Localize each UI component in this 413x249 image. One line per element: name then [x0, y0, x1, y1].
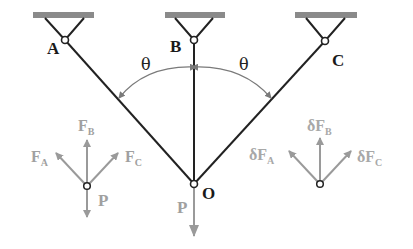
fbd-left-node — [84, 183, 91, 190]
label-a: A — [47, 39, 60, 58]
label-o: O — [202, 184, 215, 203]
force-arrow-fc — [89, 153, 118, 184]
angle-arc-right — [196, 67, 271, 98]
ceiling-a — [33, 12, 94, 18]
label-b: B — [170, 37, 181, 56]
joint-o — [191, 181, 198, 188]
label-fa: FA — [31, 148, 49, 168]
fbd-right-node — [317, 181, 324, 188]
label-dfb: δFB — [307, 117, 332, 137]
fbd-right: δFB δFA δFC — [249, 117, 382, 187]
label-p-fbd: P — [98, 191, 108, 210]
fbd-left: FB FA FC P — [31, 117, 142, 217]
support-c — [295, 12, 357, 41]
force-arrow-fa — [56, 153, 85, 184]
pin-c — [322, 38, 329, 45]
support-a — [33, 12, 94, 40]
label-dfc: δFC — [357, 148, 382, 168]
label-c: C — [332, 51, 344, 70]
label-dfa: δFA — [249, 146, 275, 166]
pin-b — [191, 37, 198, 44]
label-p-main: P — [177, 198, 187, 217]
label-fb: FB — [78, 117, 95, 137]
angle-arc-left — [119, 67, 192, 98]
support-b — [165, 12, 225, 40]
ceiling-c — [295, 12, 357, 18]
label-theta-right: θ — [239, 55, 249, 74]
force-arrow-dfa — [289, 151, 318, 182]
label-fc: FC — [125, 148, 142, 168]
label-theta-left: θ — [141, 55, 151, 74]
ceiling-b — [165, 12, 225, 18]
truss-diagram: A B C O P θ θ FB FA FC P δFB δFA δFC — [0, 0, 413, 249]
force-arrow-dfc — [322, 151, 351, 182]
pin-a — [62, 37, 69, 44]
